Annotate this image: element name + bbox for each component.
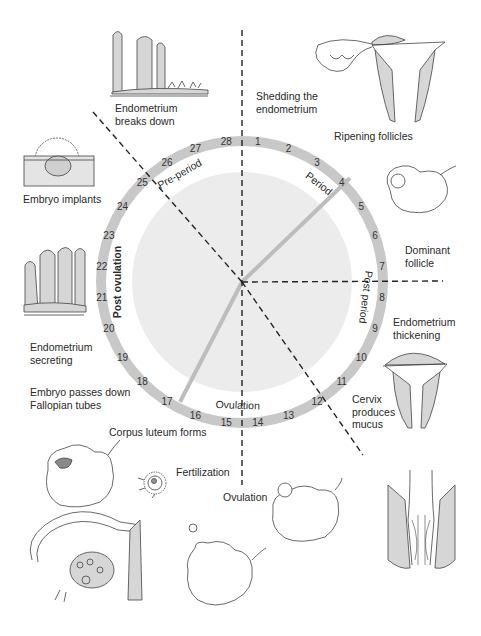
- label-cervix-produces-mucus: Cervix produces mucus: [352, 393, 395, 431]
- dashed-divider: [242, 281, 443, 282]
- day-number: 25: [137, 177, 149, 188]
- day-number: 6: [372, 230, 378, 241]
- label-dominant-follicle: Dominant follicle: [405, 244, 450, 269]
- day-number: 5: [359, 201, 365, 212]
- day-number: 7: [379, 261, 385, 272]
- day-number: 4: [339, 177, 345, 188]
- day-number: 17: [161, 396, 173, 407]
- day-number: 18: [137, 376, 149, 387]
- follicle-illustration-top: [387, 166, 456, 213]
- label-shedding-endometrium: Shedding the endometrium: [256, 90, 318, 115]
- day-number: 21: [96, 292, 108, 303]
- label-ovulation-event: Ovulation: [223, 491, 267, 504]
- day-number: 3: [314, 157, 320, 168]
- label-embryo-implants: Embryo implants: [23, 193, 101, 206]
- released-egg-illustration: [187, 524, 266, 605]
- day-number: 10: [356, 352, 368, 363]
- label-corpus-luteum-forms: Corpus luteum forms: [109, 426, 206, 439]
- label-ripening-follicles: Ripening follicles: [334, 130, 413, 143]
- day-number: 23: [103, 230, 115, 241]
- phase-label: Ovulation: [215, 398, 260, 412]
- phase-label: Post ovulation: [111, 246, 123, 318]
- cervix-mucus-illustration: [388, 470, 455, 568]
- day-number: 22: [96, 261, 108, 272]
- fallopian-tube-illustration: [30, 512, 142, 602]
- day-number: 1: [255, 136, 261, 147]
- day-number: 20: [103, 323, 115, 334]
- day-number: 27: [190, 143, 202, 154]
- day-number: 14: [252, 417, 264, 428]
- day-number: 13: [283, 410, 295, 421]
- label-endometrium-breaks-down: Endometrium breaks down: [115, 102, 177, 127]
- endometrium-breakdown-illustration: [110, 32, 208, 97]
- menstrual-cycle-diagram: 1234567891011121314151617181920212223242…: [0, 0, 481, 636]
- day-number: 19: [117, 352, 129, 363]
- day-number: 15: [221, 417, 233, 428]
- day-number: 24: [117, 201, 129, 212]
- day-number: 9: [372, 323, 378, 334]
- day-number: 26: [161, 157, 173, 168]
- embryo-implant-illustration: [24, 138, 94, 186]
- day-number: 16: [190, 410, 202, 421]
- day-number: 2: [286, 143, 292, 154]
- corpus-luteum-illustration: [47, 440, 121, 507]
- ovulation-follicle-illustration: [273, 478, 343, 541]
- fertilization-illustration: [138, 472, 166, 498]
- endometrium-secreting-illustration: [24, 248, 86, 316]
- phase-label: Post period: [357, 270, 375, 324]
- label-endometrium-secreting: Endometrium secreting: [30, 341, 92, 366]
- label-fertilization: Fertilization: [176, 466, 230, 479]
- label-endometrium-thickening: Endometrium thickening: [393, 316, 455, 341]
- day-number: 12: [311, 396, 323, 407]
- label-embryo-passes-down: Embryo passes down Fallopian tubes: [30, 386, 130, 411]
- day-number: 28: [221, 136, 233, 147]
- uterus-illustration-top: [316, 35, 445, 122]
- day-number: 11: [337, 376, 348, 387]
- day-number: 8: [379, 292, 385, 303]
